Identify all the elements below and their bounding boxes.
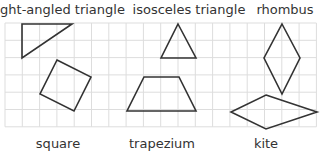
kite-shape <box>231 95 317 129</box>
shapes-diagram <box>0 0 323 159</box>
trapezium-shape <box>127 77 196 111</box>
square-shape <box>40 60 91 111</box>
right-angled-triangle-shape <box>22 24 72 58</box>
